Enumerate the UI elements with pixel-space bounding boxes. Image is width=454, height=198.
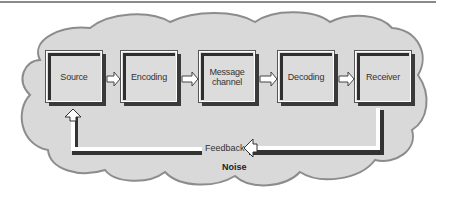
box-encoding: Encoding xyxy=(121,51,181,106)
diagram-canvas: Source Encoding Messagechannel Decoding … xyxy=(0,0,454,198)
feedback-label: Feedback xyxy=(205,143,245,153)
box-decoding: Decoding xyxy=(278,51,338,106)
box-encoding-label: Encoding xyxy=(121,51,177,102)
box-message-channel-label: Messagechannel xyxy=(199,51,255,102)
box-message-channel: Messagechannel xyxy=(199,51,259,106)
box-source-label: Source xyxy=(46,51,102,102)
box-receiver-label: Receiver xyxy=(355,51,411,102)
box-source: Source xyxy=(46,51,106,106)
noise-label: Noise xyxy=(222,162,247,172)
box-receiver: Receiver xyxy=(355,51,415,106)
box-decoding-label: Decoding xyxy=(278,51,334,102)
